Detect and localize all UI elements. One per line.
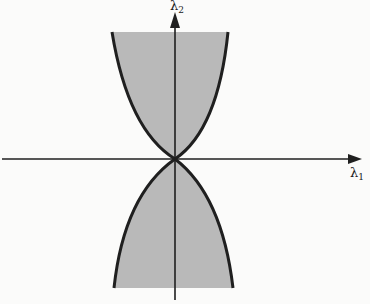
- lambda2-axis-label: λ2: [170, 0, 184, 15]
- lower-shaded-region: [114, 159, 233, 288]
- lambda2-subscript: 2: [178, 5, 184, 15]
- lambda1-arrowhead-icon: [348, 154, 362, 164]
- lambda1-symbol: λ: [350, 165, 358, 180]
- region-diagram: [0, 0, 370, 304]
- lambda2-symbol: λ: [170, 0, 178, 13]
- lambda1-axis-label: λ1: [350, 166, 364, 182]
- lambda1-subscript: 1: [358, 172, 364, 182]
